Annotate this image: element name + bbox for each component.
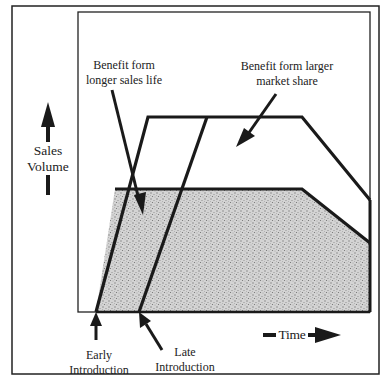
market-share-label: Benefit form larger market share [232, 59, 342, 89]
market-share-arrow-head [236, 128, 255, 147]
late-label-line1: Late [150, 345, 220, 360]
market-share-label-line1: Benefit form larger [232, 59, 342, 74]
market-share-label-line2: market share [232, 74, 342, 89]
early-label-line1: Early [64, 348, 134, 363]
early-introduction-label: Early Introduction [64, 348, 134, 378]
market-share-arrow-shaft [248, 94, 276, 134]
longer-life-label-line1: Benefit form [84, 58, 164, 73]
late-introduction-area [96, 189, 370, 312]
diagram-canvas [0, 0, 387, 386]
early-arrow-head [90, 312, 102, 326]
x-axis-label-text: Time [279, 327, 306, 342]
late-label-line2: Introduction [150, 360, 220, 375]
y-axis-label: Sales Volume [18, 143, 78, 175]
longer-life-label: Benefit form longer sales life [84, 58, 164, 88]
longer-life-label-line2: longer sales life [84, 73, 164, 88]
longer-life-arrow-shaft [112, 90, 139, 200]
y-axis-arrow-up-icon [41, 102, 55, 127]
y-axis-arrow-shaft-top [46, 126, 50, 142]
early-label-line2: Introduction [64, 363, 134, 378]
x-axis-arrow-tail [263, 333, 277, 337]
y-axis-label-line2: Volume [18, 159, 78, 175]
y-axis-label-line1: Sales [18, 143, 78, 159]
y-axis-arrow-shaft-bottom [46, 175, 50, 195]
late-introduction-label: Late Introduction [150, 345, 220, 375]
x-axis-label: Time [276, 327, 308, 343]
x-axis-arrow-right-icon [315, 327, 341, 343]
late-arrow-head [139, 312, 151, 328]
